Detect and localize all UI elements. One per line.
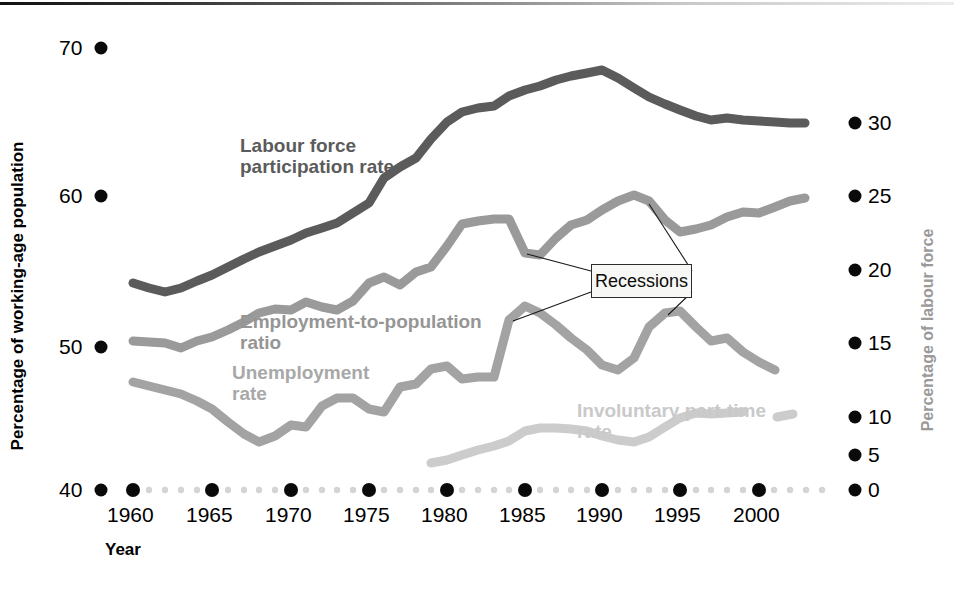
left-axis-title: Percentage of working-age population [8,142,28,451]
right-axis-tick-20: 20 [868,258,891,282]
right-axis-tick-0: 0 [868,478,880,502]
right-axis-tick-dots [849,117,862,497]
recessions-annotation-label: Recessions [595,271,688,292]
series-line-lfp [133,70,805,292]
x-axis-tick-2000: 2000 [733,503,780,527]
x-axis-tick-1960: 1960 [107,503,154,527]
left-axis-tick-40: 40 [59,478,82,502]
series-label-epop: Employment-to-population ratio [240,311,482,354]
recessions-annotation-box: Recessions [591,264,692,298]
x-axis-minor-ticks [146,487,825,493]
right-axis-title: Percentage of labour force [919,229,937,432]
right-axis-tick-5: 5 [868,443,880,467]
series-label-unemployment: Unemployment rate [232,362,369,405]
x-axis-tick-1985: 1985 [499,503,546,527]
x-axis-tick-1975: 1975 [343,503,390,527]
left-axis-tick-70: 70 [59,36,82,60]
x-axis-tick-1990: 1990 [576,503,623,527]
x-axis-tick-1965: 1965 [186,503,233,527]
right-axis-tick-25: 25 [868,184,891,208]
right-axis-tick-15: 15 [868,331,891,355]
right-axis-tick-10: 10 [868,405,891,429]
left-axis-tick-dots [95,42,108,497]
series-label-involuntary-part-time: Involuntary part-time rate [577,400,766,443]
x-axis-title: Year [105,540,141,560]
chart-figure: 70 60 50 40 30 25 20 15 10 5 0 1960 1965… [0,0,954,593]
left-axis-tick-60: 60 [59,184,82,208]
series-line-involuntary-part-time-segment2 [777,414,793,417]
x-axis-tick-1970: 1970 [265,503,312,527]
series-label-lfp: Labour force participation rate [240,135,394,178]
right-axis-tick-30: 30 [868,111,891,135]
x-axis-major-ticks [126,483,766,497]
left-axis-tick-50: 50 [59,335,82,359]
x-axis-tick-1995: 1995 [654,503,701,527]
x-axis-tick-1980: 1980 [421,503,468,527]
